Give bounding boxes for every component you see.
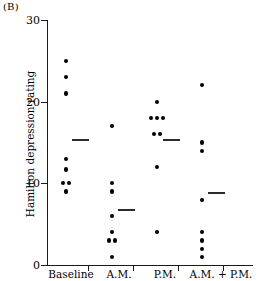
data-point <box>110 124 114 128</box>
y-tick-label-0-wrap: 0 <box>0 260 40 271</box>
y-tick-label-30: 30 <box>2 15 40 26</box>
y-tick-label-10: 10 <box>2 178 40 189</box>
y-tick-label-10-wrap: 10 <box>0 178 40 189</box>
data-point <box>200 255 204 259</box>
data-point <box>64 59 68 63</box>
y-tick-label-20: 20 <box>2 97 40 108</box>
x-category-pm: P.M. <box>143 268 187 281</box>
data-point <box>64 91 68 95</box>
data-point <box>67 181 71 185</box>
data-point <box>200 149 204 153</box>
data-point <box>200 140 204 144</box>
y-axis-line <box>47 20 48 266</box>
data-point <box>155 116 159 120</box>
x-category-am: A.M. <box>97 268 141 281</box>
data-point <box>110 255 114 259</box>
data-point <box>110 230 114 234</box>
data-point <box>61 181 65 185</box>
y-tick-label-20-wrap: 20 <box>0 97 40 108</box>
data-point <box>64 167 68 171</box>
y-tick-label-30-wrap: 30 <box>0 15 40 26</box>
y-tick-30 <box>41 20 47 21</box>
data-point <box>200 198 204 202</box>
mean-bar <box>118 209 135 211</box>
y-tick-10 <box>41 183 47 184</box>
y-tick-label-0: 0 <box>2 260 40 271</box>
data-point <box>113 238 117 242</box>
data-point <box>107 238 111 242</box>
mean-bar <box>163 139 180 141</box>
data-point <box>200 230 204 234</box>
mean-bar <box>72 139 89 141</box>
data-point <box>200 83 204 87</box>
data-point <box>110 181 114 185</box>
data-point <box>200 247 204 251</box>
data-point <box>110 189 114 193</box>
data-point <box>149 116 153 120</box>
data-point <box>155 230 159 234</box>
x-category-baseline: Baseline <box>40 268 102 281</box>
mean-bar <box>208 192 225 194</box>
data-point <box>155 100 159 104</box>
data-point <box>110 214 114 218</box>
y-tick-0 <box>41 265 47 266</box>
data-point <box>158 132 162 136</box>
data-point <box>161 116 165 120</box>
data-point <box>200 238 204 242</box>
data-point <box>155 165 159 169</box>
data-point <box>64 75 68 79</box>
data-point <box>64 189 68 193</box>
x-category-am-pm: A.M. + P.M. <box>185 268 257 281</box>
scatter-plot: 30 20 10 0 Baseline A.M. P.M. A.M. + P.M… <box>0 0 261 281</box>
data-point <box>64 157 68 161</box>
data-point <box>152 132 156 136</box>
y-tick-20 <box>41 102 47 103</box>
figure-panel-b: (B) Hamilton depression rating 30 20 10 … <box>0 0 261 281</box>
